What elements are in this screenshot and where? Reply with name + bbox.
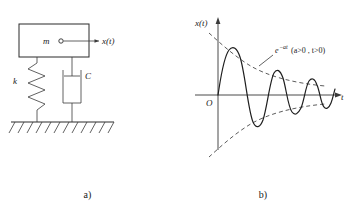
envelope-annotation-exponent: −at	[279, 44, 288, 50]
origin-label: O	[206, 98, 213, 108]
panel-mass-spring-damper: m x(t) k	[0, 0, 175, 208]
spring-coil	[28, 63, 45, 110]
envelope-annotation-condition: (a>0 , t>0)	[291, 46, 325, 55]
displacement-arrow	[64, 39, 100, 43]
x-axis-label: t	[341, 92, 344, 102]
spring-constant-label: k	[13, 76, 18, 86]
damped-oscillation-chart: x(t) t O e −at (a>0 , t>0)	[175, 0, 351, 190]
panel-a-caption: a)	[0, 189, 175, 200]
envelope-annotation: e −at (a>0 , t>0)	[275, 44, 325, 55]
y-axis-label: x(t)	[194, 18, 208, 28]
annotation-leader-line	[259, 55, 273, 66]
reference-point-marker	[59, 39, 63, 43]
damping-coefficient-label: C	[85, 71, 92, 81]
panel-damped-oscillation: x(t) t O e −at (a>0 , t>0) b)	[175, 0, 351, 208]
ground-hatching	[9, 122, 114, 133]
oscillation-curve	[218, 48, 335, 127]
panel-b-caption: b)	[175, 189, 351, 200]
figure-root: m x(t) k	[0, 0, 351, 208]
mass-spring-damper-drawing: m x(t) k	[0, 0, 175, 190]
lower-envelope-curve	[209, 104, 325, 157]
mass-block	[19, 24, 89, 57]
mass-label: m	[43, 36, 50, 46]
displacement-label: x(t)	[101, 36, 115, 46]
